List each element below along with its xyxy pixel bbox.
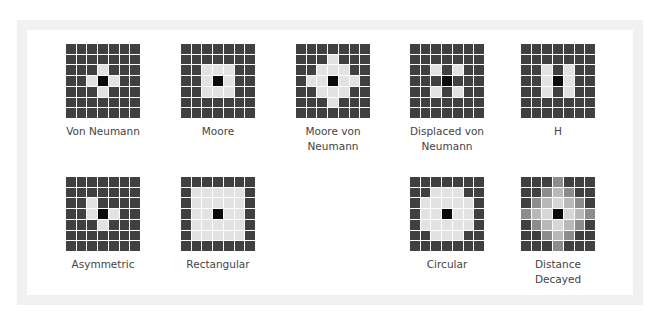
grid-cell [77, 87, 87, 97]
grid-cell [521, 241, 531, 251]
grid-cell [474, 241, 484, 251]
decay-cell [553, 188, 563, 198]
grid-cell [474, 55, 484, 65]
grid-cell [410, 44, 420, 54]
grid-cell [120, 231, 130, 241]
neighborhood-label: Rectangular [163, 257, 273, 272]
grid-cell [350, 87, 360, 97]
neighbor-cell [421, 198, 431, 208]
neighbor-cell [202, 76, 212, 86]
decay-cell [542, 231, 552, 241]
grid-cell [521, 44, 531, 54]
grid-cell [296, 87, 306, 97]
neighborhood-label: H [503, 124, 613, 139]
grid-cell [410, 220, 420, 230]
grid-cell [181, 65, 191, 75]
grid-cell [98, 198, 108, 208]
grid-cell [464, 241, 474, 251]
neighbor-cell [442, 220, 452, 230]
grid-cell [66, 65, 76, 75]
grid-cell [575, 65, 585, 75]
neighbor-cell [202, 188, 212, 198]
grid-cell [130, 209, 140, 219]
grid-cell [224, 108, 234, 118]
grid-cell [202, 55, 212, 65]
neighbor-cell [542, 76, 552, 86]
grid-cell [296, 76, 306, 86]
grid-cell [453, 108, 463, 118]
focal-cell [213, 209, 223, 219]
grid-cell [360, 87, 370, 97]
grid-cell [120, 241, 130, 251]
grid-cell [542, 98, 552, 108]
grid-cell [245, 188, 255, 198]
grid-cell [98, 108, 108, 118]
grid-cell [542, 55, 552, 65]
neighbor-cell [564, 65, 574, 75]
grid-cell [87, 44, 97, 54]
neighbor-cell [213, 87, 223, 97]
grid-cell [442, 241, 452, 251]
grid-cell [66, 241, 76, 251]
grid-cell [109, 108, 119, 118]
grid-cell [564, 241, 574, 251]
grid-cell [442, 87, 452, 97]
neighbor-cell [202, 220, 212, 230]
grid-cell [192, 76, 202, 86]
grid-cell [66, 198, 76, 208]
neighbor-cell [202, 87, 212, 97]
grid-cell [66, 231, 76, 241]
grid-cell [130, 108, 140, 118]
grid-cell [66, 177, 76, 187]
decay-cell [575, 198, 585, 208]
grid-cell [360, 55, 370, 65]
neighbor-cell [213, 65, 223, 75]
grid-cell [213, 108, 223, 118]
grid-cell [585, 55, 595, 65]
grid-cell [66, 188, 76, 198]
grid-cell [521, 65, 531, 75]
grid-cell [66, 220, 76, 230]
grid-cell [296, 108, 306, 118]
grid-cell [431, 44, 441, 54]
grid-cell [87, 231, 97, 241]
neighbor-cell [317, 87, 327, 97]
grid-cell [77, 108, 87, 118]
neighbor-cell [307, 76, 317, 86]
neighbor-cell [213, 188, 223, 198]
focal-cell [442, 209, 452, 219]
neighbor-cell [235, 220, 245, 230]
grid-cell [431, 177, 441, 187]
decay-cell [542, 220, 552, 230]
grid-cell [532, 177, 542, 187]
grid-cell [235, 44, 245, 54]
grid-cell [181, 177, 191, 187]
neighbor-cell [235, 198, 245, 208]
grid-cell [66, 44, 76, 54]
grid-cell [360, 65, 370, 75]
grid-cell [224, 241, 234, 251]
grid-cell [213, 177, 223, 187]
grid-cell [192, 65, 202, 75]
grid-cell [120, 65, 130, 75]
grid-cell [464, 231, 474, 241]
grid-cell [575, 76, 585, 86]
neighborhood-label: Moore [163, 124, 273, 139]
grid-cell [87, 188, 97, 198]
neighbor-cell [192, 209, 202, 219]
grid-cell [181, 98, 191, 108]
focal-cell [553, 76, 563, 86]
neighbor-cell [464, 220, 474, 230]
grid-cell [181, 44, 191, 54]
neighborhood-grid [410, 44, 484, 118]
grid-cell [360, 98, 370, 108]
neighbor-cell [109, 209, 119, 219]
neighborhood-label: Displaced von Neumann [402, 124, 492, 154]
neighborhood-grid [181, 177, 255, 251]
grid-cell [421, 44, 431, 54]
grid-cell [120, 177, 130, 187]
neighbor-cell [109, 76, 119, 86]
grid-cell [77, 188, 87, 198]
grid-cell [98, 98, 108, 108]
grid-cell [410, 55, 420, 65]
